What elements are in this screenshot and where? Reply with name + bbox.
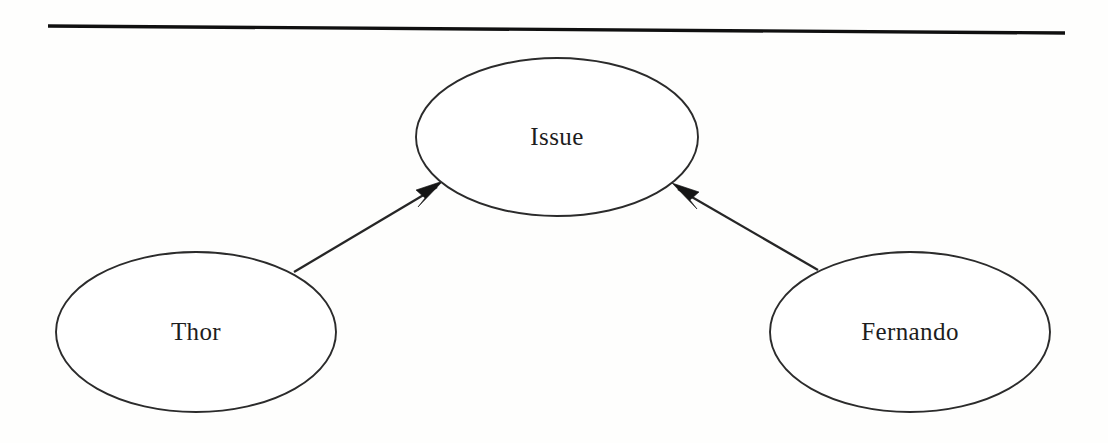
arrowhead-icon-thor-issue [416,181,443,207]
node-fernando-label: Fernando [861,318,959,345]
node-thor[interactable]: Thor [56,252,336,412]
arrowhead-icon-fernando-issue [672,183,699,209]
node-issue[interactable]: Issue [416,58,698,216]
diagram-canvas: Issue Thor Fernando [0,0,1108,443]
diagram-surface: Issue Thor Fernando [0,0,1108,443]
edge-thor-to-issue[interactable] [294,181,443,272]
node-thor-label: Thor [171,318,221,345]
edge-line-fernando-issue [678,189,818,270]
node-issue-label: Issue [530,123,583,150]
edge-line-thor-issue [294,187,437,272]
top-horizontal-rule [48,26,1065,33]
node-fernando[interactable]: Fernando [770,252,1050,412]
edge-fernando-to-issue[interactable] [672,183,818,270]
